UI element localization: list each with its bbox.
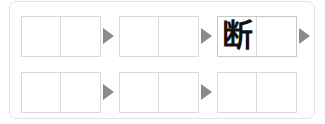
writing-cell-right[interactable] xyxy=(159,73,198,112)
practice-row: 断 xyxy=(10,15,314,57)
writing-box[interactable] xyxy=(217,72,297,113)
writing-cell-left[interactable] xyxy=(22,17,61,56)
writing-cell-right[interactable] xyxy=(61,17,100,56)
writing-cell-left[interactable] xyxy=(218,73,257,112)
arrow-right-icon xyxy=(201,84,212,100)
arrow-right-icon xyxy=(103,28,114,44)
writing-cell-left[interactable]: 断 xyxy=(218,17,257,56)
arrow-right-icon xyxy=(103,84,114,100)
practice-grid: 断 xyxy=(10,2,314,118)
writing-box[interactable] xyxy=(119,16,199,57)
practice-row xyxy=(10,71,314,113)
writing-box-active[interactable]: 断 xyxy=(217,16,297,57)
writing-cell-right[interactable] xyxy=(159,17,198,56)
arrow-right-icon xyxy=(299,28,310,44)
writing-box[interactable] xyxy=(119,72,199,113)
writing-box[interactable] xyxy=(21,72,101,113)
writing-cell-right[interactable] xyxy=(257,17,296,56)
arrow-right-icon xyxy=(201,28,212,44)
writing-cell-left[interactable] xyxy=(22,73,61,112)
writing-cell-left[interactable] xyxy=(120,73,159,112)
kanji-practice-panel: 断 xyxy=(9,1,315,119)
writing-cell-right[interactable] xyxy=(61,73,100,112)
writing-cell-left[interactable] xyxy=(120,17,159,56)
writing-box[interactable] xyxy=(21,16,101,57)
kanji-glyph: 断 xyxy=(222,20,253,51)
writing-cell-right[interactable] xyxy=(257,73,296,112)
